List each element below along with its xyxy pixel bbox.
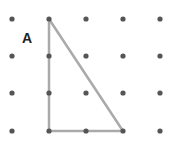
- grid-dot: [9, 128, 14, 133]
- grid-dot: [157, 53, 162, 58]
- grid-dot: [120, 128, 125, 133]
- grid-dot: [83, 90, 88, 95]
- grid-dot: [9, 53, 14, 58]
- grid-dot: [157, 90, 162, 95]
- grid-dot: [120, 90, 125, 95]
- grid-dot: [46, 16, 51, 21]
- grid-dot: [46, 90, 51, 95]
- dot-grid-diagram: A: [0, 0, 174, 142]
- geoboard-svg: [0, 0, 174, 142]
- grid-dot: [46, 128, 51, 133]
- grid-dot: [120, 16, 125, 21]
- grid-dot: [83, 16, 88, 21]
- grid-dot: [9, 16, 14, 21]
- grid-dot: [83, 53, 88, 58]
- grid-dot: [46, 53, 51, 58]
- grid-dot: [9, 90, 14, 95]
- grid-dot: [157, 128, 162, 133]
- grid-dot: [83, 128, 88, 133]
- shape-label-a: A: [22, 30, 32, 46]
- grid-dot: [157, 16, 162, 21]
- triangle-a: [49, 19, 123, 131]
- grid-dot: [120, 53, 125, 58]
